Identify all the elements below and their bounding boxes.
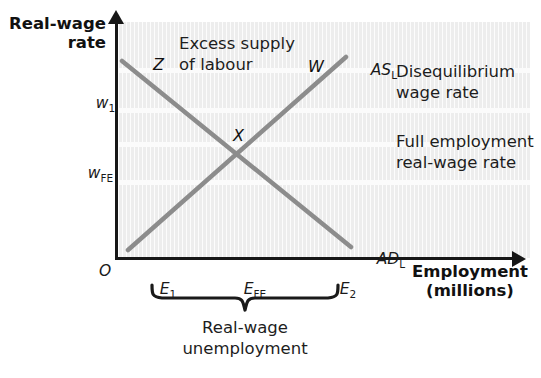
origin-label: O (99, 262, 111, 280)
x-axis-title: Employment (millions) (404, 262, 536, 300)
ad-l-curve-label: ADL (357, 232, 405, 286)
x-axis-line (115, 257, 515, 260)
x-tick-e2-sub: 2 (350, 288, 357, 300)
y-tick-wfe-sub: FE (100, 172, 113, 184)
y-axis-line (115, 22, 118, 260)
point-label-w: W (308, 57, 324, 76)
y-tick-wfe: wFE (68, 146, 113, 200)
curly-brace-icon (140, 283, 350, 319)
annotation-excess-supply: Excess supply of labour (179, 33, 295, 75)
background-band (118, 180, 530, 185)
y-tick-w1-base: w (96, 94, 109, 112)
ad-l-label-sub: L (399, 258, 405, 270)
ad-l-label-base: AD (377, 250, 400, 268)
annotation-full-employment: Full employment real-wage rate (396, 131, 534, 173)
point-label-z: Z (153, 55, 164, 74)
y-tick-wfe-base: w (88, 164, 101, 182)
background-band (118, 108, 530, 113)
y-tick-w1-sub: 1 (108, 102, 115, 114)
as-l-curve-label: ASL (351, 43, 397, 97)
y-axis-arrow-icon (108, 10, 124, 24)
real-wage-unemployment-diagram: Real-wage rate Employment (millions) O w… (0, 0, 541, 378)
caption-real-wage-unemployment: Real-wage unemployment (150, 317, 340, 359)
point-label-x: X (233, 126, 244, 145)
annotation-disequilibrium-wage: Disequilibrium wage rate (396, 61, 515, 103)
y-axis-title: Real-wage rate (6, 14, 106, 52)
y-tick-w1: w1 (76, 76, 115, 130)
as-l-label-base: AS (371, 61, 391, 79)
